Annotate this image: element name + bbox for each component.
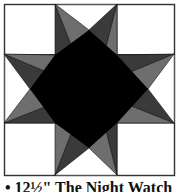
figure-caption: • 12½" The Night Watch — [0, 180, 177, 192]
quilt-block-figure — [0, 0, 177, 180]
